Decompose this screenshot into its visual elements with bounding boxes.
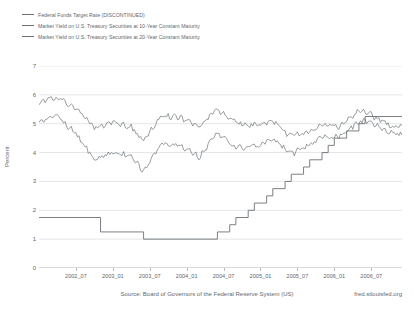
y-tick-label: 7 — [33, 63, 36, 69]
series-lines — [39, 97, 402, 240]
x-tick-mark — [297, 268, 298, 271]
x-tick-label: 2003_01 — [102, 273, 124, 279]
x-tick-mark — [371, 268, 372, 271]
legend-label-10-year: Market Yield on U.S. Treasury Securities… — [38, 23, 200, 29]
x-tick-label: 2004_01 — [176, 273, 198, 279]
chart-footer: Source: Board of Governors of the Federa… — [0, 291, 414, 305]
x-tick-mark — [224, 268, 225, 271]
legend-swatch-line-icon — [22, 25, 34, 26]
y-tick-label: 3 — [33, 178, 36, 184]
x-tick-mark — [76, 268, 77, 271]
x-tick-label: 2006_01 — [323, 273, 345, 279]
legend-label-fed-funds: Federal Funds Target Rate (DISCONTINUED) — [38, 12, 145, 18]
chart-canvas — [39, 66, 402, 268]
plot-area — [39, 66, 402, 268]
y-axis-ticks: 01234567 — [22, 66, 36, 268]
legend-swatch-line-icon — [22, 14, 34, 15]
legend-label-20-year: Market Yield on U.S. Treasury Securities… — [38, 34, 200, 40]
y-tick-label: 5 — [33, 121, 36, 127]
fred-chart: Federal Funds Target Rate (DISCONTINUED)… — [0, 0, 414, 312]
x-tick-mark — [113, 268, 114, 271]
x-tick-label: 2002_07 — [65, 273, 87, 279]
chart-legend: Federal Funds Target Rate (DISCONTINUED)… — [22, 10, 402, 43]
y-tick-label: 1 — [33, 236, 36, 242]
legend-item-fed-funds: Federal Funds Target Rate (DISCONTINUED) — [22, 10, 402, 19]
x-tick-label: 2006_07 — [360, 273, 382, 279]
legend-item-20-year: Market Yield on U.S. Treasury Securities… — [22, 32, 402, 41]
source-note: Source: Board of Governors of the Federa… — [0, 291, 414, 297]
x-tick-label: 2005_01 — [250, 273, 272, 279]
x-tick-mark — [260, 268, 261, 271]
x-tick-label: 2005_07 — [287, 273, 309, 279]
gridlines — [39, 66, 402, 268]
attribution-link[interactable]: fred.stlouisfed.org — [354, 291, 402, 297]
x-tick-label: 2003_07 — [139, 273, 161, 279]
legend-item-10-year: Market Yield on U.S. Treasury Securities… — [22, 21, 402, 30]
x-tick-mark — [187, 268, 188, 271]
legend-swatch-line-icon — [22, 36, 34, 37]
x-tick-mark — [150, 268, 151, 271]
x-tick-label: 2004_07 — [213, 273, 235, 279]
y-tick-label: 2 — [33, 207, 36, 213]
x-tick-mark — [334, 268, 335, 271]
y-tick-label: 0 — [33, 265, 36, 271]
series-path — [39, 97, 402, 141]
y-tick-label: 4 — [33, 150, 36, 156]
series-path — [39, 117, 402, 240]
x-axis-ticks: 2002_072003_012003_072004_012004_072005_… — [39, 268, 402, 282]
y-tick-label: 6 — [33, 92, 36, 98]
series-path — [39, 115, 402, 173]
y-axis-title: Percent — [4, 146, 10, 167]
